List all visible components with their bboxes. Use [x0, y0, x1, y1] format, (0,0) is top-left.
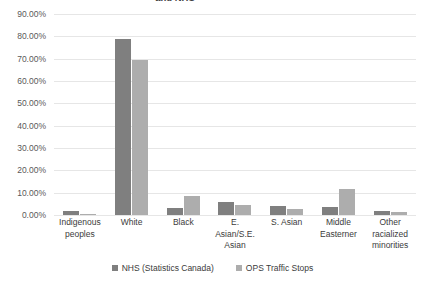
bar — [132, 60, 148, 215]
y-axis-tick-label: 20.00% — [17, 165, 46, 175]
bar-group — [313, 14, 365, 215]
y-axis-tick-label: 0.00% — [22, 210, 46, 220]
bar — [80, 214, 96, 215]
y-axis-tick-label: 90.00% — [17, 9, 46, 19]
legend-item[interactable]: OPS Traffic Stops — [236, 263, 313, 273]
legend-swatch-icon — [112, 265, 118, 271]
bar — [322, 207, 338, 215]
x-axis-category-label: E. Asian/S.E. Asian — [209, 217, 261, 252]
bar — [391, 212, 407, 215]
bar — [374, 211, 390, 215]
chart-legend: NHS (Statistics Canada)OPS Traffic Stops — [0, 263, 425, 273]
bar-group — [106, 14, 158, 215]
y-axis-tick-label: 10.00% — [17, 188, 46, 198]
legend-label: NHS (Statistics Canada) — [122, 263, 214, 273]
bar — [167, 208, 183, 215]
x-axis-category-label: Middle Easterner — [313, 217, 365, 240]
legend-item[interactable]: NHS (Statistics Canada) — [112, 263, 214, 273]
bar — [287, 209, 303, 215]
y-axis-tick-label: 50.00% — [17, 98, 46, 108]
bar — [63, 211, 79, 215]
bar — [235, 205, 251, 215]
chart-title: and NHS — [60, 0, 290, 3]
bar-group — [364, 14, 416, 215]
y-axis-tick-label: 80.00% — [17, 31, 46, 41]
bar — [218, 202, 234, 215]
gridline — [54, 215, 416, 216]
bar-group — [261, 14, 313, 215]
y-axis-tick-label: 30.00% — [17, 143, 46, 153]
y-axis-tick-label: 60.00% — [17, 76, 46, 86]
bar-group — [157, 14, 209, 215]
x-axis-category-label: S. Asian — [261, 217, 313, 229]
y-axis-tick-label: 70.00% — [17, 54, 46, 64]
bar-group — [54, 14, 106, 215]
x-axis-category-label: White — [106, 217, 158, 229]
bar-chart: and NHS 90.00%80.00%70.00%60.00%50.00%40… — [0, 0, 425, 282]
x-axis-labels: Indigenous peoplesWhiteBlackE. Asian/S.E… — [54, 217, 416, 259]
x-axis-category-label: Other racialized minorities — [364, 217, 416, 252]
bar-group — [209, 14, 261, 215]
bar — [184, 196, 200, 215]
bar — [339, 189, 355, 215]
x-axis-category-label: Indigenous peoples — [54, 217, 106, 240]
y-axis: 90.00%80.00%70.00%60.00%50.00%40.00%30.0… — [0, 14, 50, 215]
legend-swatch-icon — [236, 265, 242, 271]
x-axis-category-label: Black — [157, 217, 209, 229]
bars-layer — [54, 14, 416, 215]
y-axis-tick-label: 40.00% — [17, 121, 46, 131]
bar — [270, 206, 286, 215]
legend-label: OPS Traffic Stops — [246, 263, 313, 273]
bar — [115, 39, 131, 215]
